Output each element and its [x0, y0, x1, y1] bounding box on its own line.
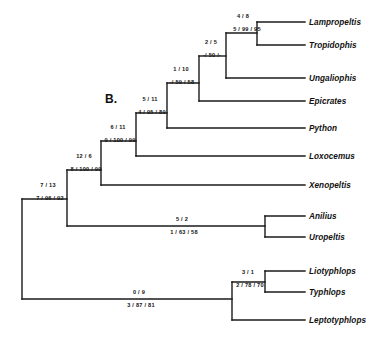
support-value-below: 4 / 95 / 89 — [138, 109, 166, 115]
phylogenetic-tree-figure: B. LampropeltisTropidophisUngaliophisEpi… — [0, 0, 374, 340]
taxon-label: Anilius — [309, 212, 337, 221]
support-value-below: -/ 50 /- — [203, 52, 221, 58]
taxon-label: Leptotyphlops — [309, 316, 366, 325]
support-value-above: 4 / 8 — [237, 13, 249, 19]
support-value-above: 0 / 9 — [133, 289, 145, 295]
support-value-below: 7 / 96 / 92 — [36, 195, 64, 201]
taxon-label: Tropidophis — [309, 41, 357, 50]
taxon-label: Ungaliophis — [309, 74, 356, 83]
taxon-label: Uropeltis — [309, 233, 345, 242]
support-value-above: 5 / 11 — [142, 96, 157, 102]
taxon-label: Lampropeltis — [309, 18, 361, 27]
support-value-below: 2 / 78 / 70 — [236, 282, 264, 288]
support-value-above: 5 / 2 — [176, 216, 188, 222]
taxon-label: Loxocemus — [309, 152, 355, 161]
support-value-above: 1 / 10 — [173, 66, 189, 72]
taxon-label: Python — [309, 124, 337, 133]
support-value-below: 1 / 63 / 58 — [170, 229, 198, 235]
panel-label: B. — [105, 92, 117, 106]
support-value-above: 3 / 1 — [242, 269, 254, 275]
support-value-above: 6 / 11 — [110, 124, 125, 130]
support-value-above: 2 / 5 — [205, 39, 217, 45]
support-value-below: -/ 59 / 58 — [170, 79, 195, 85]
support-value-below: 9 / 100 / 99 — [105, 137, 136, 143]
taxon-label: Typhlops — [309, 288, 345, 297]
support-value-above: 7 / 13 — [40, 182, 56, 188]
support-value-below: 5 / 99 / 95 — [233, 26, 261, 32]
taxon-label: Xenopeltis — [309, 181, 351, 190]
support-value-below: 3 / 87 / 81 — [127, 302, 155, 308]
support-value-above: 12 / 6 — [76, 153, 92, 159]
taxon-label: Liotyphlops — [309, 267, 356, 276]
support-value-below: 8 / 100 / 99 — [71, 166, 102, 172]
taxon-label: Epicrates — [309, 97, 346, 106]
